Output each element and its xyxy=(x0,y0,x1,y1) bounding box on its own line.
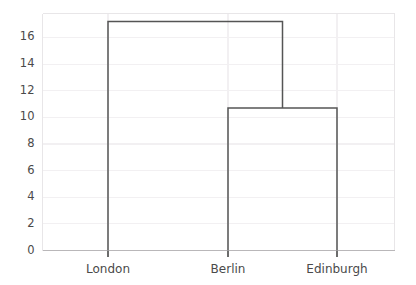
grid-lines xyxy=(43,14,395,251)
dendrogram-canvas xyxy=(0,0,416,285)
y-tick-label-6: 6 xyxy=(27,165,34,177)
dendrogram-figure: 0246810121416 LondonBerlinEdinburgh xyxy=(0,0,416,285)
x-tick-label-berlin: Berlin xyxy=(211,263,246,275)
x-tick-label-london: London xyxy=(86,263,130,275)
y-tick-label-12: 12 xyxy=(20,85,35,97)
x-tick-label-edinburgh: Edinburgh xyxy=(306,263,367,275)
y-tick-label-16: 16 xyxy=(20,32,35,44)
dendrogram-link-london-cluster-merge xyxy=(108,21,283,250)
y-tick-label-14: 14 xyxy=(20,58,35,70)
x-tick-marks xyxy=(108,251,337,258)
y-tick-label-10: 10 xyxy=(20,112,35,124)
y-tick-label-8: 8 xyxy=(27,138,34,150)
y-tick-label-4: 4 xyxy=(27,191,34,203)
dendrogram-links xyxy=(108,21,337,250)
y-tick-label-2: 2 xyxy=(27,218,34,230)
y-tick-label-0: 0 xyxy=(27,245,34,257)
axes-spines xyxy=(43,14,395,251)
dendrogram-link-berlin-edinburgh-merge xyxy=(228,108,337,250)
